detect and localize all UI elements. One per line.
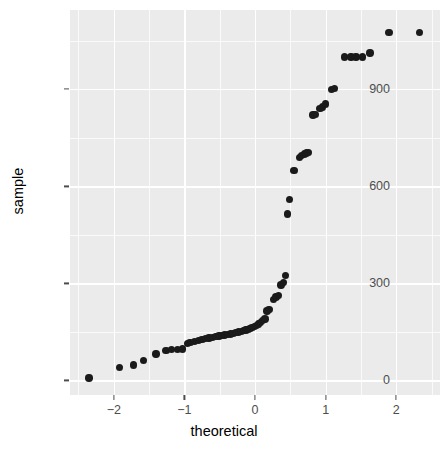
data-point: [140, 357, 147, 364]
grid-major-vertical: [396, 10, 397, 395]
x-tick-label: 0: [252, 403, 259, 417]
grid-major-vertical: [184, 10, 185, 395]
data-point: [275, 292, 282, 299]
data-point: [311, 111, 318, 118]
x-tick-mark: [254, 395, 255, 400]
data-point: [85, 374, 92, 381]
plot-panel: [70, 10, 440, 395]
x-tick-mark: [325, 395, 326, 400]
x-tick-mark: [113, 395, 114, 400]
grid-major-vertical: [114, 10, 115, 395]
data-point: [116, 364, 123, 371]
data-point: [322, 100, 329, 107]
y-tick-label: 900: [369, 82, 390, 96]
y-tick-mark: [64, 283, 69, 284]
grid-minor-horizontal: [70, 235, 440, 236]
data-point: [331, 85, 338, 92]
x-tick-mark: [396, 395, 397, 400]
data-point: [282, 272, 289, 279]
grid-minor-vertical: [432, 10, 433, 395]
grid-minor-vertical: [361, 10, 362, 395]
grid-major-vertical: [326, 10, 327, 395]
y-tick-label: 0: [383, 373, 390, 387]
x-tick-label: 2: [393, 403, 400, 417]
x-tick-label: 1: [322, 403, 329, 417]
data-point: [286, 196, 293, 203]
y-axis-title: sample: [10, 111, 26, 271]
qq-plot-figure: 0300600900 −2−1012 theoretical sample: [0, 0, 448, 450]
data-point: [261, 315, 268, 322]
grid-minor-horizontal: [70, 332, 440, 333]
data-point: [152, 350, 159, 357]
y-tick-mark: [64, 380, 69, 381]
grid-major-vertical: [255, 10, 256, 395]
data-point: [290, 167, 297, 174]
data-point: [416, 29, 423, 36]
grid-minor-horizontal: [70, 41, 440, 42]
data-point: [284, 210, 291, 217]
data-point: [305, 149, 312, 156]
data-point: [366, 49, 373, 56]
grid-minor-horizontal: [70, 138, 440, 139]
data-point: [359, 53, 366, 60]
y-tick-mark: [64, 89, 69, 90]
data-point: [130, 361, 137, 368]
y-tick-mark: [64, 186, 69, 187]
x-tick-label: −1: [177, 403, 191, 417]
y-tick-label: 600: [369, 179, 390, 193]
grid-minor-vertical: [149, 10, 150, 395]
data-point: [280, 279, 287, 286]
x-tick-mark: [184, 395, 185, 400]
x-tick-label: −2: [107, 403, 121, 417]
data-point: [265, 306, 272, 313]
y-tick-label: 300: [369, 276, 390, 290]
grid-minor-vertical: [78, 10, 79, 395]
data-point: [385, 29, 392, 36]
x-axis-title: theoretical: [0, 423, 448, 439]
